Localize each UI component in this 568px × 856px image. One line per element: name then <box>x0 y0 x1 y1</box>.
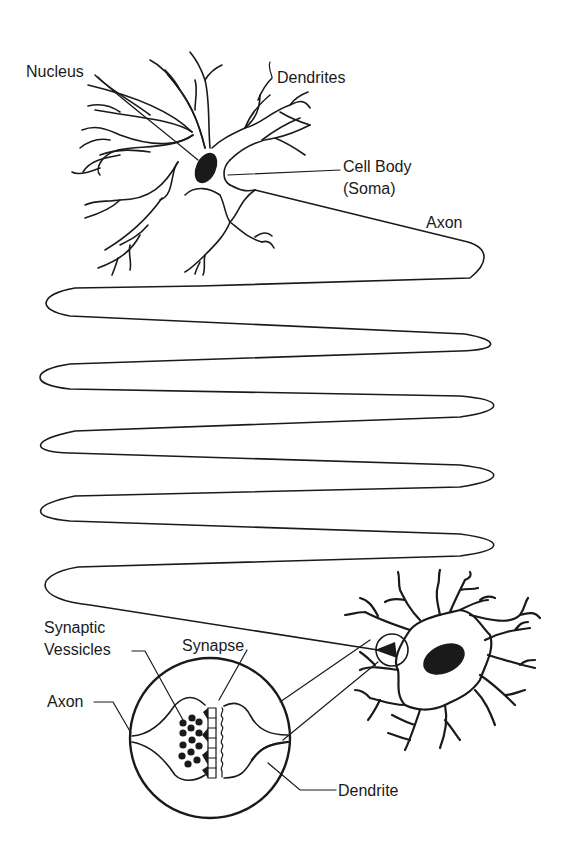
label-vessicles: Vessicles <box>44 641 111 658</box>
label-axon-inset: Axon <box>47 693 83 710</box>
bottom-neuron <box>345 570 540 750</box>
neuron-diagram: Nucleus Dendrites Cell Body (Soma) Axon <box>0 0 568 856</box>
top-labels: Nucleus Dendrites Cell Body (Soma) Axon <box>26 62 462 231</box>
axon-path <box>40 190 494 650</box>
label-dendrites: Dendrites <box>277 69 345 86</box>
top-nucleus <box>190 149 222 186</box>
label-cell-body: Cell Body <box>343 158 411 175</box>
presynaptic-membrane <box>208 708 216 778</box>
bottom-nucleus <box>418 637 470 681</box>
label-synapse: Synapse <box>182 637 244 654</box>
label-axon-top: Axon <box>426 214 462 231</box>
postsynaptic-membrane <box>221 708 223 777</box>
label-synaptic: Synaptic <box>44 619 105 636</box>
label-dendrite: Dendrite <box>338 782 399 799</box>
label-soma: (Soma) <box>343 180 395 197</box>
inset-labels: Synaptic Vessicles Synapse Axon Dendrite <box>44 619 399 799</box>
label-nucleus: Nucleus <box>26 63 84 80</box>
